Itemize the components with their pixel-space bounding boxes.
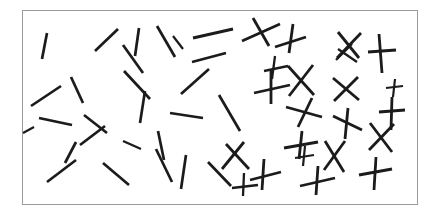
line-segment-element [173, 36, 183, 49]
line-03-stroke-a [123, 45, 143, 73]
line-segment-element [135, 28, 139, 56]
cross-09-stroke-b [345, 108, 348, 139]
line-segment-element [124, 71, 150, 99]
line-segment-element [219, 95, 240, 131]
cross-element [324, 141, 345, 172]
line-segment-element [31, 86, 61, 106]
line-08-stroke-a [31, 86, 61, 106]
stimulus-elements-layer [23, 18, 405, 196]
cross-element [333, 108, 362, 139]
cross-22-stroke-b [303, 146, 305, 166]
line-segment-element [192, 53, 226, 62]
cross-element [359, 157, 392, 190]
line-segment-element [23, 127, 34, 133]
line-segment-element [208, 162, 231, 186]
line-segment-element [84, 115, 107, 133]
cross-20-stroke-a [232, 185, 258, 188]
line-segment-element [181, 69, 209, 94]
line-09-stroke-a [71, 77, 83, 103]
line-segment-element [95, 29, 118, 51]
cross-element [288, 65, 314, 96]
cross-20-stroke-b [243, 173, 244, 196]
cross-element [369, 123, 394, 152]
line-14-stroke-a [181, 69, 209, 94]
line-05-stroke-a [157, 26, 175, 57]
cross-04-stroke-b [368, 50, 396, 52]
line-02-stroke-a [95, 29, 118, 51]
line-segment-element [47, 160, 76, 182]
cross-element [286, 98, 322, 127]
cross-02-stroke-b [289, 24, 293, 53]
cross-18-stroke-a [264, 66, 288, 71]
line-20-stroke-a [47, 160, 76, 182]
line-23-stroke-a [181, 155, 186, 189]
line-10-stroke-a [39, 118, 72, 125]
line-segment-element [39, 118, 72, 125]
cross-18-stroke-b [272, 56, 275, 79]
line-segment-element [181, 155, 186, 189]
cross-element [232, 173, 258, 196]
line-segment-element [71, 77, 83, 103]
cross-element [368, 34, 396, 73]
cross-14-stroke-a [250, 172, 281, 180]
cross-element [264, 56, 288, 79]
line-06-stroke-a [193, 29, 233, 38]
cross-13-stroke-a [226, 144, 249, 169]
line-15-stroke-a [192, 53, 226, 62]
line-04-stroke-a [135, 28, 139, 56]
line-25-stroke-a [123, 141, 141, 149]
line-24-stroke-a [208, 162, 231, 186]
line-segment-element [42, 33, 47, 59]
cross-element [333, 77, 359, 101]
cross-element [386, 79, 403, 97]
stimulus-figure [0, 0, 438, 215]
cross-01-stroke-b [253, 18, 269, 46]
cross-element [242, 18, 280, 46]
line-16-stroke-a [170, 113, 203, 118]
cross-16-stroke-b [316, 166, 318, 195]
cross-10-stroke-b [379, 110, 405, 112]
line-11-stroke-a [84, 115, 107, 133]
line-12-stroke-a [140, 91, 145, 123]
cross-15-stroke-b [299, 131, 302, 159]
line-segment-element [193, 29, 233, 38]
cross-element [300, 166, 335, 195]
cross-13-stroke-b [222, 142, 244, 169]
line-segment-element [80, 126, 105, 145]
line-07-stroke-a [124, 71, 150, 99]
cross-21-stroke-b [393, 79, 395, 97]
cross-17-stroke-b [374, 157, 376, 190]
line-01-stroke-a [42, 33, 47, 59]
line-segment-element [123, 45, 143, 73]
line-segment-element [170, 113, 203, 118]
line-13-stroke-a [80, 126, 105, 145]
line-segment-element [103, 163, 129, 185]
line-segment-element [157, 26, 175, 57]
cross-element [275, 24, 306, 53]
line-21-stroke-a [103, 163, 129, 185]
line-26-stroke-a [23, 127, 34, 133]
line-segment-element [140, 91, 145, 123]
cross-14-stroke-b [262, 159, 264, 190]
cross-element [295, 146, 314, 166]
line-segment-element [123, 141, 141, 149]
line-27-stroke-a [173, 36, 183, 49]
cross-element [222, 142, 249, 169]
line-17-stroke-a [219, 95, 240, 131]
cross-04-stroke-a [379, 34, 382, 73]
stimulus-canvas [0, 0, 438, 215]
